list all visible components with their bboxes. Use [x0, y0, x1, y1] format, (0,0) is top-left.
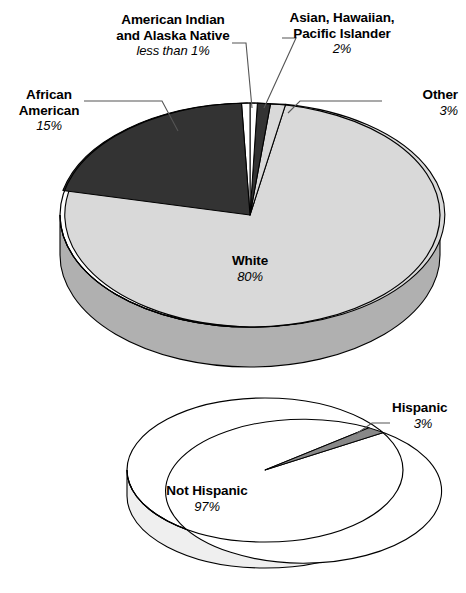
label-white-pct: 80%	[200, 269, 300, 285]
label-other-pct: 3%	[330, 103, 458, 119]
label-african-american-pct: 15%	[12, 118, 86, 134]
leader-american-indian	[232, 43, 252, 108]
label-white: White 80%	[200, 253, 300, 284]
label-american-indian: American Indian and Alaska Native less t…	[112, 12, 234, 59]
label-hispanic: Hispanic 3%	[392, 400, 464, 431]
label-other: Other 3%	[330, 87, 458, 118]
figure-canvas: American Indian and Alaska Native less t…	[0, 0, 466, 593]
label-hispanic-title: Hispanic	[392, 400, 464, 416]
label-asian-pct: 2%	[282, 41, 402, 57]
label-white-title: White	[200, 253, 300, 269]
label-african-american: African American 15%	[12, 87, 86, 134]
label-african-american-line2: American	[12, 103, 86, 119]
label-african-american-line1: African	[12, 87, 86, 103]
label-american-indian-pct: less than 1%	[112, 43, 234, 59]
label-asian-line2: Pacific Islander	[282, 26, 402, 42]
race-pie	[60, 103, 445, 367]
label-not-hispanic: Not Hispanic 97%	[152, 483, 262, 514]
label-hispanic-pct: 3%	[392, 416, 454, 432]
label-not-hispanic-pct: 97%	[152, 499, 262, 515]
label-american-indian-line2: and Alaska Native	[112, 28, 234, 44]
label-asian-line1: Asian, Hawaiian,	[282, 10, 402, 26]
label-asian: Asian, Hawaiian, Pacific Islander 2%	[282, 10, 402, 57]
label-american-indian-line1: American Indian	[112, 12, 234, 28]
label-not-hispanic-title: Not Hispanic	[152, 483, 262, 499]
label-other-title: Other	[330, 87, 458, 103]
